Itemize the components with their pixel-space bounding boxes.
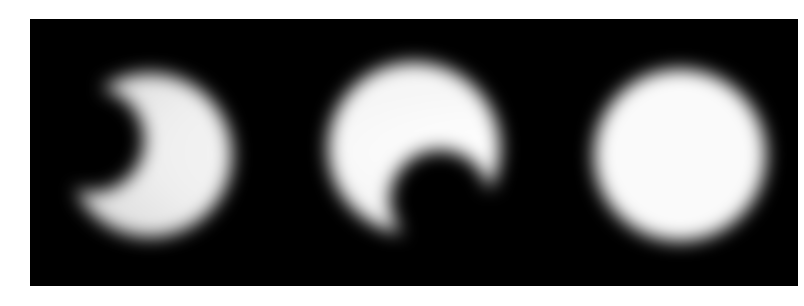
glow-frames <box>30 19 798 286</box>
frame-3-disc <box>594 69 766 241</box>
image-panel <box>30 19 798 286</box>
